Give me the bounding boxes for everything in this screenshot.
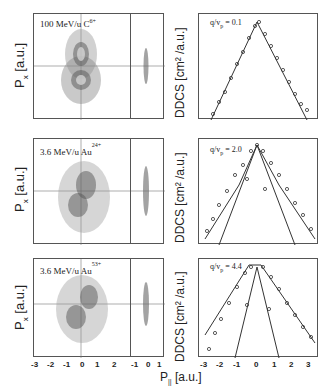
projection-1 bbox=[130, 13, 164, 119]
y-axis-label-3: Px [a.u.] bbox=[12, 285, 30, 330]
projectile-label-3: 3.6 MeV/u Au53+ bbox=[40, 265, 101, 276]
tick: -2 bbox=[47, 360, 54, 369]
tick: -3 bbox=[31, 360, 38, 369]
q-ratio-label-1: q/vp = 0.1 bbox=[210, 18, 242, 29]
tick: 1 bbox=[157, 360, 161, 369]
tick: 0 bbox=[254, 360, 258, 369]
projectile-label-2: 3.6 MeV/u Au24+ bbox=[40, 146, 101, 157]
ddcs-axis-label-2: DDCS [cm² /a.u.] bbox=[173, 152, 187, 243]
tick: 0 bbox=[80, 360, 84, 369]
tick: 2 bbox=[289, 360, 293, 369]
tick: -1 bbox=[131, 360, 138, 369]
ddcs-plot-1 bbox=[198, 13, 318, 119]
tick: -1 bbox=[233, 360, 240, 369]
tick: -3 bbox=[200, 360, 207, 369]
tick: 2 bbox=[112, 360, 116, 369]
y-axis-label-2: Px [a.u.] bbox=[12, 167, 30, 212]
y-axis-label-1: Px [a.u.] bbox=[12, 43, 30, 88]
x-axis-label: P|| [a.u.] bbox=[160, 370, 202, 385]
tick: 1 bbox=[272, 360, 276, 369]
projectile-label-1: 100 MeV/u C6+ bbox=[40, 18, 96, 29]
tick: 0 bbox=[146, 360, 150, 369]
tick: -1 bbox=[63, 360, 70, 369]
q-ratio-label-2: q/vp = 2.0 bbox=[210, 145, 242, 156]
ddcs-axis-label-1: DDCS [cm² /a.u.] bbox=[173, 27, 187, 118]
ddcs-plot-3 bbox=[198, 258, 318, 357]
tick: -2 bbox=[216, 360, 223, 369]
tick: 1 bbox=[95, 360, 99, 369]
q-ratio-label-3: q/vp = 4.4 bbox=[210, 262, 242, 273]
projection-2 bbox=[130, 138, 164, 244]
tick: 3 bbox=[306, 360, 310, 369]
density-plot-1 bbox=[34, 14, 132, 120]
projection-3 bbox=[130, 258, 164, 357]
ddcs-axis-label-3: DDCS [cm² /a.u.] bbox=[173, 271, 187, 362]
